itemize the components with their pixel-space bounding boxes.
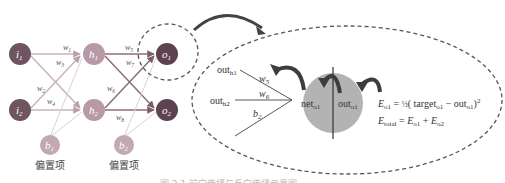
weight-label: w8 xyxy=(116,113,124,123)
total-error-formula: Etotal = Eo1 + Eo2 xyxy=(377,115,445,128)
hidden-node-h1: h1 xyxy=(83,43,105,65)
backprop-diagram: w1 w3 w2 w4 w5 w7 w6 w8 i1 i2 h1 h2 o1 o… xyxy=(0,0,505,183)
bias-node-b2: b2 xyxy=(114,135,134,155)
bias-caption: 偏置项 xyxy=(109,159,139,171)
weight-label: w4 xyxy=(47,97,55,107)
weight-label: w6 xyxy=(107,84,115,94)
bias-node-b1: b1 xyxy=(40,135,60,155)
bias-caption: 偏置项 xyxy=(35,159,65,171)
zoom-weight-label: b2 xyxy=(253,108,262,121)
weight-label: w7 xyxy=(126,58,134,68)
weight-label: w3 xyxy=(56,58,64,68)
output-node-o2: o2 xyxy=(156,99,178,121)
hidden-node-h2: h2 xyxy=(83,99,105,121)
zoom-input-label: outh1 xyxy=(217,64,237,77)
figure-caption: 图 2.1 前向传播与反向传播示意图 xyxy=(160,178,297,183)
zoom-weight-label: w6 xyxy=(259,88,270,101)
zoom-arrow-icon xyxy=(194,15,262,30)
weight-label: w2 xyxy=(37,84,45,94)
output-node-o1: o1 xyxy=(156,43,178,65)
weight-label: w5 xyxy=(125,43,133,53)
error-formula: Eo1 = ½( targeto1 − outo1)2 xyxy=(377,97,481,111)
input-node-i1: i1 xyxy=(9,43,31,65)
weight-label: w1 xyxy=(63,43,71,53)
input-node-i2: i2 xyxy=(9,99,31,121)
zoom-input-label: outh2 xyxy=(210,95,230,108)
